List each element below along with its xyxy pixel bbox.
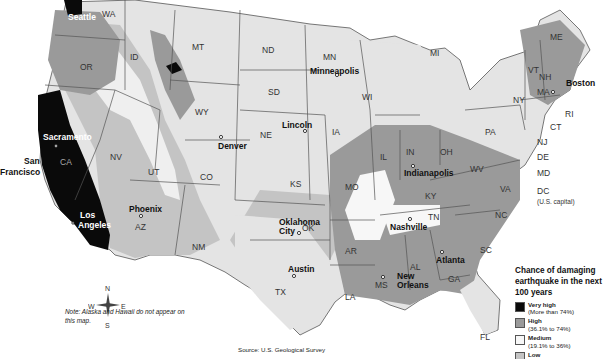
- state-label-co: CO: [200, 172, 213, 182]
- state-label-vt: VT: [528, 65, 539, 75]
- city-dot-atlanta: [440, 250, 443, 253]
- city-label-austin: Austin: [288, 264, 314, 274]
- state-label-nh: NH: [539, 72, 551, 82]
- state-label-ar: AR: [345, 246, 357, 256]
- state-label-fl: FL: [480, 332, 490, 342]
- legend-range-medium: (19.1% to 36%): [528, 342, 571, 349]
- city-label-denver: Denver: [218, 141, 248, 151]
- city-label-boston: Boston: [566, 78, 595, 88]
- city-label-seattle: Seattle: [68, 12, 96, 22]
- map-note: Note: Alaska and Hawaii do not appear on…: [65, 307, 185, 325]
- state-label-nd: ND: [262, 45, 274, 55]
- legend-range-very-high: (More than 74%): [528, 308, 574, 315]
- city-dot-los-angeles: [72, 222, 74, 224]
- earthquake-hazard-map: WA OR ID MT ND MN MI ME SD WI WY NE IA N…: [0, 0, 606, 359]
- state-label-in: IN: [406, 147, 415, 157]
- city-dot-sacramento: [55, 145, 58, 148]
- state-label-ma: MA: [537, 87, 550, 97]
- state-label-de: DE: [537, 152, 549, 162]
- city-label-los-angeles-1: Los: [80, 210, 95, 220]
- state-label-ia: IA: [332, 127, 340, 137]
- state-label-va: VA: [500, 184, 511, 194]
- state-label-nm: NM: [192, 242, 205, 252]
- city-label-oklahoma-city-2: City: [279, 226, 295, 236]
- state-label-ne: NE: [260, 130, 272, 140]
- state-label-ks: KS: [290, 179, 302, 189]
- state-label-md: MD: [537, 168, 550, 178]
- city-dot-denver: [219, 135, 222, 138]
- city-dot-oklahoma-city: [297, 231, 300, 234]
- city-label-los-angeles-2: Angeles: [78, 220, 111, 230]
- legend-item-high: High(36.1% to 74%): [515, 317, 606, 331]
- legend-item-very-high: Very high(More than 74%): [515, 301, 606, 315]
- state-label-wi: WI: [362, 92, 372, 102]
- city-label-new-orleans-2: Orleans: [397, 280, 429, 290]
- state-label-ky: KY: [425, 191, 437, 201]
- state-label-wa: WA: [102, 9, 116, 19]
- city-label-atlanta: Atlanta: [436, 255, 465, 265]
- state-label-ms: MS: [375, 280, 388, 290]
- state-label-nv: NV: [110, 152, 122, 162]
- state-label-mi: MI: [430, 48, 439, 58]
- state-label-la: LA: [345, 292, 356, 302]
- city-label-nashville: Nashville: [390, 222, 428, 232]
- state-label-wy: WY: [195, 107, 209, 117]
- state-label-nj: NJ: [537, 137, 547, 147]
- compass-n: N: [105, 285, 110, 292]
- city-label-sacramento: Sacramento: [43, 132, 92, 142]
- city-dot-new-orleans: [381, 275, 384, 278]
- legend-item-low: Low(4% to 19%): [515, 351, 606, 359]
- city-label-minneapolis: Minneapolis: [310, 66, 359, 76]
- state-label-nc: NC: [495, 210, 507, 220]
- city-dot-austin: [292, 274, 295, 277]
- state-label-ut: UT: [148, 167, 159, 177]
- state-label-mn: MN: [323, 52, 336, 62]
- state-label-or: OR: [80, 62, 93, 72]
- legend-label-low: Low: [528, 351, 562, 358]
- state-label-id: ID: [130, 52, 139, 62]
- city-dot-nashville: [408, 217, 411, 220]
- city-dot-phoenix: [139, 214, 142, 217]
- legend-label-high: High: [528, 317, 571, 324]
- state-label-tx: TX: [275, 287, 286, 297]
- state-label-mo: MO: [345, 182, 359, 192]
- city-label-indianapolis: Indianapolis: [404, 168, 454, 178]
- map-source: Source: U.S. Geological Survey: [238, 346, 325, 353]
- city-label-lincoln: Lincoln: [282, 120, 312, 130]
- state-label-me: ME: [550, 32, 563, 42]
- legend-swatch-high: [515, 318, 525, 328]
- state-label-ri: RI: [565, 109, 574, 119]
- legend-item-medium: Medium(19.1% to 36%): [515, 334, 606, 348]
- state-label-tn: TN: [428, 212, 439, 222]
- legend-range-high: (36.1% to 74%): [528, 325, 571, 332]
- legend-title: Chance of damaging earthquake in the nex…: [515, 265, 606, 298]
- state-label-ca: CA: [60, 157, 72, 167]
- state-label-ct: CT: [550, 122, 561, 132]
- state-label-pa: PA: [485, 127, 496, 137]
- state-label-il: IL: [380, 152, 387, 162]
- legend-swatch-very-high: [515, 302, 525, 312]
- state-label-oh: OH: [440, 147, 453, 157]
- state-label-dc: DC: [537, 186, 549, 196]
- legend-swatch-low: [515, 352, 525, 359]
- state-label-az: AZ: [135, 222, 146, 232]
- state-label-sc: SC: [480, 245, 492, 255]
- city-label-phoenix: Phoenix: [129, 204, 162, 214]
- state-label-mt: MT: [192, 42, 204, 52]
- city-label-san-francisco-1: San: [24, 156, 40, 166]
- state-label-ny: NY: [513, 95, 525, 105]
- legend-label-medium: Medium: [528, 334, 571, 341]
- state-label-ga: GA: [448, 274, 461, 284]
- very-low-zone-plains: [235, 20, 330, 165]
- legend-label-very-high: Very high: [528, 301, 574, 308]
- legend: Chance of damaging earthquake in the nex…: [515, 265, 606, 359]
- state-label-sd: SD: [268, 87, 280, 97]
- city-dot-boston: [551, 90, 554, 93]
- city-label-san-francisco-2: Francisco: [0, 167, 40, 177]
- legend-swatch-medium: [515, 335, 525, 345]
- dc-capital-note: (U.S. capital): [537, 198, 575, 206]
- state-label-wv: WV: [470, 164, 484, 174]
